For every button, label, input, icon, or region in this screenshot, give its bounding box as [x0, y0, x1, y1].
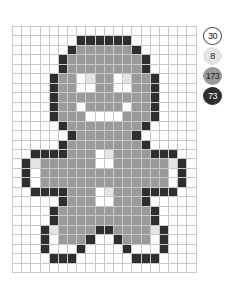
grid-cell [96, 131, 105, 140]
grid-cell [123, 36, 132, 45]
grid-cell [77, 150, 86, 159]
grid-cell [160, 226, 169, 235]
grid-cell [50, 245, 59, 254]
grid-cell [123, 178, 132, 187]
grid-cell [187, 27, 196, 36]
grid-cell [142, 207, 151, 216]
grid-cell [68, 150, 77, 159]
grid-cell [13, 74, 22, 83]
grid-cell [142, 27, 151, 36]
grid-cell [13, 169, 22, 178]
grid-cell [68, 169, 77, 178]
grid-cell [132, 103, 141, 112]
grid-cell [59, 150, 68, 159]
grid-cell [77, 112, 86, 121]
grid-cell [123, 245, 132, 254]
grid-cell [86, 122, 95, 131]
grid-cell [86, 197, 95, 206]
grid-cell [114, 169, 123, 178]
grid-cell [142, 178, 151, 187]
grid-cell [86, 235, 95, 244]
grid-cell [13, 254, 22, 263]
grid-cell [142, 74, 151, 83]
grid-cell [105, 27, 114, 36]
grid-cell [77, 169, 86, 178]
grid-cell [86, 178, 95, 187]
grid-cell [187, 207, 196, 216]
grid-cell [50, 169, 59, 178]
legend-swatch-dark: 73 [203, 87, 222, 105]
grid-cell [169, 188, 178, 197]
grid-cell [132, 93, 141, 102]
grid-cell [142, 226, 151, 235]
grid-cell [86, 188, 95, 197]
grid-cell [123, 141, 132, 150]
grid-cell [59, 112, 68, 121]
grid-cell [132, 226, 141, 235]
grid-cell [114, 226, 123, 235]
grid-cell [41, 197, 50, 206]
grid-cell [50, 103, 59, 112]
grid-cell [13, 159, 22, 168]
grid-cell [68, 226, 77, 235]
grid-cell [96, 197, 105, 206]
grid-cell [41, 112, 50, 121]
grid-cell [169, 197, 178, 206]
grid-cell [160, 197, 169, 206]
grid-cell [77, 27, 86, 36]
grid-cell [105, 188, 114, 197]
grid-cell [105, 141, 114, 150]
grid-cell [31, 55, 40, 64]
grid-cell [96, 103, 105, 112]
grid-cell [68, 235, 77, 244]
grid-cell [31, 46, 40, 55]
grid-cell [13, 46, 22, 55]
grid-cell [114, 245, 123, 254]
grid-cell [77, 216, 86, 225]
grid-cell [169, 65, 178, 74]
grid-cell [31, 141, 40, 150]
grid-cell [77, 235, 86, 244]
grid-cell [31, 169, 40, 178]
grid-cell [50, 36, 59, 45]
grid-cell [31, 178, 40, 187]
grid-cell [105, 36, 114, 45]
grid-cell [50, 55, 59, 64]
grid-cell [22, 103, 31, 112]
grid-cell [178, 169, 187, 178]
grid-cell [178, 46, 187, 55]
grid-cell [132, 235, 141, 244]
grid-cell [105, 74, 114, 83]
grid-cell [50, 235, 59, 244]
grid-cell [41, 235, 50, 244]
grid-cell [169, 207, 178, 216]
grid-cell [50, 112, 59, 121]
grid-cell [22, 150, 31, 159]
grid-cell [13, 27, 22, 36]
grid-cell [41, 188, 50, 197]
grid-cell [31, 27, 40, 36]
grid-cell [114, 112, 123, 121]
grid-cell [132, 207, 141, 216]
grid-cell [160, 235, 169, 244]
grid-cell [151, 36, 160, 45]
grid-cell [96, 27, 105, 36]
grid-cell [123, 103, 132, 112]
grid-cell [41, 27, 50, 36]
grid-cell [22, 235, 31, 244]
legend-count-light-gray: 8 [210, 51, 215, 61]
grid-cell [132, 254, 141, 263]
grid-cell [123, 254, 132, 263]
grid-cell [86, 46, 95, 55]
grid-cell [114, 84, 123, 93]
legend-count-gray: 173 [206, 71, 220, 81]
grid-cell [59, 36, 68, 45]
grid-cell [59, 264, 68, 273]
grid-cell [96, 122, 105, 131]
grid-cell [151, 65, 160, 74]
grid-cell [132, 46, 141, 55]
grid-cell [13, 93, 22, 102]
grid-cell [151, 84, 160, 93]
grid-cell [96, 207, 105, 216]
grid-cell [77, 254, 86, 263]
